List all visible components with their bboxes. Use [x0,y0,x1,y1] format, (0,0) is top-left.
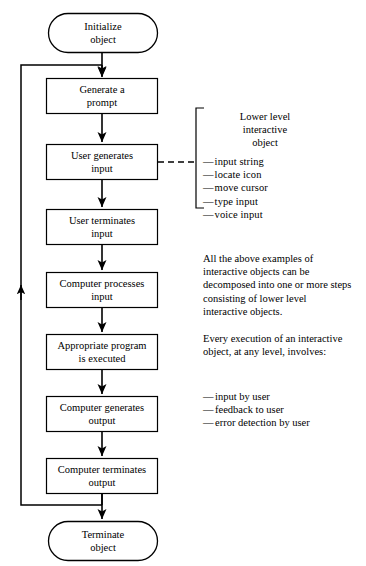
bracket-item-list: —input string —locate icon —move cursor … [203,155,343,221]
diagram-page: Initialize object Generate a prompt User… [0,0,366,566]
involves-list-item: —input by user [203,390,358,403]
bracket-item-dash: — [203,155,214,168]
explanatory-text-block: All the above examples of interactive ob… [203,252,353,358]
involves-item-dash: — [203,390,215,403]
node-terminate-shape [49,522,158,561]
bracket-list-item: —voice input [203,208,343,221]
bracket-heading: Lower level interactive object [205,110,325,150]
bracket-item-label: type input [215,196,258,207]
node-computer-generates-shape [47,397,158,432]
bracket-item-label: locate icon [215,169,262,180]
bracket-list-item: —move cursor [203,181,343,194]
bracket-list-item: —locate icon [203,168,343,181]
bracket-item-dash: — [203,208,214,221]
bracket-list-item: —input string [203,155,343,168]
bracket-item-dash: — [203,195,214,208]
bracket-item-dash: — [203,168,214,181]
bracket-item-label: move cursor [215,182,268,193]
involves-list-item: —error detection by user [203,416,358,429]
involves-item-label: input by user [215,391,270,402]
bracket-item-dash: — [203,181,214,194]
involves-item-dash: — [203,403,215,416]
explanatory-paragraph: Every execution of an interactive object… [203,332,353,358]
node-user-terminates-shape [47,210,158,245]
node-computer-terminates-shape [47,459,158,494]
node-user-generates-shape [47,145,158,180]
node-initialize-shape [49,14,158,53]
bracket-list-item: —type input [203,195,343,208]
node-program-executed-shape [47,335,158,370]
bracket-item-label: voice input [215,209,263,220]
involves-list: —input by user —feedback to user —error … [203,390,358,430]
explanatory-paragraph: All the above examples of interactive ob… [203,252,353,318]
involves-item-label: feedback to user [215,404,284,415]
node-generate-prompt-shape [47,79,158,114]
involves-item-label: error detection by user [215,417,310,428]
involves-item-dash: — [203,416,215,429]
involves-list-item: —feedback to user [203,403,358,416]
bracket-item-label: input string [215,156,264,167]
node-computer-processes-shape [47,273,158,308]
